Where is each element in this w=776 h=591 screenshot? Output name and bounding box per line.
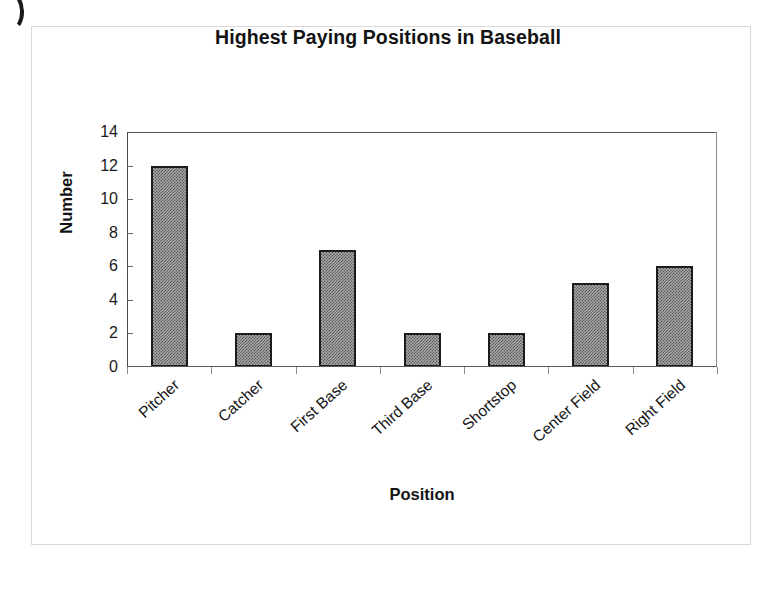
y-axis-title: Number bbox=[57, 133, 76, 273]
bar-pitcher bbox=[151, 166, 188, 367]
y-tick-label: 10 bbox=[84, 190, 118, 208]
y-axis-tick-labels: 02468101214 bbox=[84, 132, 118, 367]
y-tick-label: 2 bbox=[84, 324, 118, 342]
plot-top-border bbox=[127, 132, 717, 133]
x-tick-mark bbox=[633, 367, 634, 374]
bar-center-field bbox=[572, 283, 609, 367]
y-axis-line bbox=[127, 132, 128, 367]
y-tick-label: 6 bbox=[84, 257, 118, 275]
chart-title: Highest Paying Positions in Baseball bbox=[0, 26, 776, 49]
y-tick-mark bbox=[127, 166, 133, 167]
x-tick-mark bbox=[548, 367, 549, 374]
y-tick-mark bbox=[127, 333, 133, 334]
y-tick-mark bbox=[127, 300, 133, 301]
chart-screenshot: Highest Paying Positions in Baseball Num… bbox=[0, 0, 776, 591]
plot-right-border bbox=[716, 132, 717, 367]
x-tick-mark bbox=[211, 367, 212, 374]
y-tick-mark bbox=[127, 233, 133, 234]
y-tick-mark bbox=[127, 199, 133, 200]
x-tick-mark bbox=[464, 367, 465, 374]
y-tick-label: 8 bbox=[84, 224, 118, 242]
bar-right-field bbox=[656, 266, 693, 367]
x-tick-mark bbox=[717, 367, 718, 374]
x-tick-mark bbox=[380, 367, 381, 374]
plot-area bbox=[127, 132, 717, 367]
y-tick-label: 0 bbox=[84, 358, 118, 376]
x-tick-mark bbox=[296, 367, 297, 374]
bar-first-base bbox=[319, 250, 356, 368]
x-axis-line bbox=[127, 366, 717, 367]
y-tick-label: 4 bbox=[84, 291, 118, 309]
y-tick-label: 14 bbox=[84, 123, 118, 141]
bar-catcher bbox=[235, 333, 272, 367]
x-tick-mark bbox=[127, 367, 128, 374]
y-tick-label: 12 bbox=[84, 157, 118, 175]
bar-shortstop bbox=[488, 333, 525, 367]
y-tick-mark bbox=[127, 266, 133, 267]
x-axis-title: Position bbox=[127, 485, 717, 504]
bar-third-base bbox=[404, 333, 441, 367]
